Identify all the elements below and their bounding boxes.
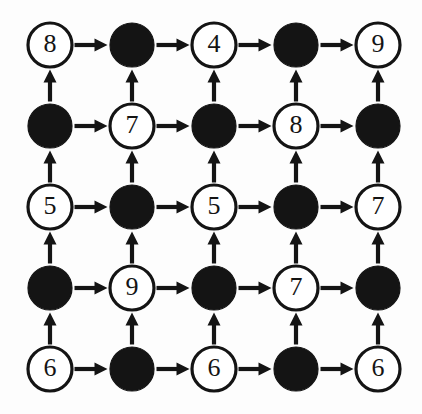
edge-arrow-right (321, 120, 354, 133)
edge-arrow-right (75, 39, 108, 52)
node-label: 7 (290, 272, 303, 301)
edge-arrow-right (75, 282, 108, 295)
node-open[interactable]: 7 (356, 185, 400, 229)
edge-arrow-right (75, 201, 108, 214)
edge-arrow-right (75, 363, 108, 376)
node-open[interactable]: 8 (274, 104, 318, 148)
node-label: 8 (290, 110, 303, 139)
edge-arrow-right (321, 282, 354, 295)
node-open[interactable]: 5 (192, 185, 236, 229)
edge-arrow-right (239, 201, 272, 214)
node-filled[interactable] (192, 104, 236, 148)
edge-arrow-up (372, 313, 385, 345)
edge-arrow-right (157, 282, 190, 295)
node-filled[interactable] (274, 185, 318, 229)
node-open[interactable]: 6 (28, 347, 72, 391)
edge-arrow-up (290, 70, 303, 102)
edge-arrow-up (126, 151, 139, 183)
edge-arrow-up (44, 70, 57, 102)
node-open[interactable]: 7 (274, 266, 318, 310)
grid-graph-figure: 8497855797666 (0, 0, 422, 414)
node-label: 5 (44, 191, 57, 220)
node-filled[interactable] (274, 23, 318, 67)
node-filled[interactable] (356, 266, 400, 310)
node-label: 9 (126, 272, 139, 301)
node-filled[interactable] (110, 347, 154, 391)
node-open[interactable]: 4 (192, 23, 236, 67)
edge-arrow-right (75, 120, 108, 133)
node-label: 9 (372, 29, 385, 58)
edge-arrow-up (126, 313, 139, 345)
node-filled[interactable] (356, 104, 400, 148)
node-open[interactable]: 7 (110, 104, 154, 148)
node-label: 7 (372, 191, 385, 220)
node-open[interactable]: 5 (28, 185, 72, 229)
edge-arrow-up (44, 232, 57, 264)
node-open[interactable]: 8 (28, 23, 72, 67)
edge-arrow-up (44, 313, 57, 345)
edge-arrow-up (290, 151, 303, 183)
node-label: 8 (44, 29, 57, 58)
edge-arrow-up (290, 313, 303, 345)
node-open[interactable]: 9 (110, 266, 154, 310)
edge-arrow-up (126, 232, 139, 264)
edge-arrow-up (372, 70, 385, 102)
edge-arrow-up (208, 151, 221, 183)
edge-arrow-up (372, 151, 385, 183)
node-filled[interactable] (110, 185, 154, 229)
node-filled[interactable] (274, 347, 318, 391)
node-open[interactable]: 6 (192, 347, 236, 391)
node-label: 7 (126, 110, 139, 139)
grid-graph-canvas: 8497855797666 (0, 0, 422, 414)
node-filled[interactable] (28, 104, 72, 148)
node-label: 5 (208, 191, 221, 220)
edge-arrow-right (239, 363, 272, 376)
edge-arrow-right (239, 282, 272, 295)
edge-arrow-right (321, 39, 354, 52)
edge-arrow-right (239, 39, 272, 52)
edge-arrow-right (157, 39, 190, 52)
edge-arrow-right (321, 201, 354, 214)
edge-arrow-right (239, 120, 272, 133)
edge-arrow-up (44, 151, 57, 183)
node-label: 6 (372, 353, 385, 382)
edge-arrow-right (157, 201, 190, 214)
edge-arrow-right (321, 363, 354, 376)
node-filled[interactable] (110, 23, 154, 67)
node-open[interactable]: 9 (356, 23, 400, 67)
edge-arrow-up (126, 70, 139, 102)
edge-arrow-up (372, 232, 385, 264)
edge-arrow-up (290, 232, 303, 264)
edge-arrow-up (208, 232, 221, 264)
node-filled[interactable] (192, 266, 236, 310)
node-label: 6 (44, 353, 57, 382)
edge-arrow-up (208, 313, 221, 345)
node-label: 4 (208, 29, 221, 58)
node-open[interactable]: 6 (356, 347, 400, 391)
edge-arrow-right (157, 363, 190, 376)
node-label: 6 (208, 353, 221, 382)
edge-arrow-up (208, 70, 221, 102)
node-filled[interactable] (28, 266, 72, 310)
edge-arrow-right (157, 120, 190, 133)
